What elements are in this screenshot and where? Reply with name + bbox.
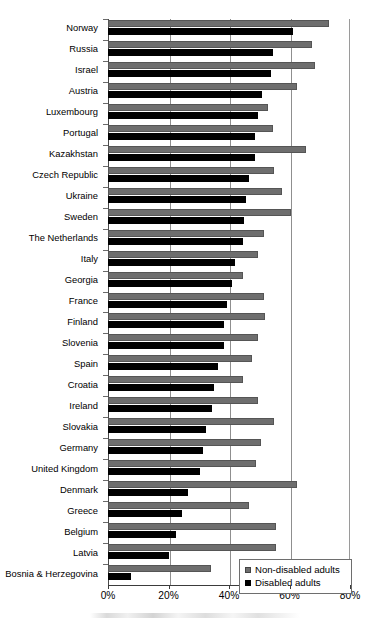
bar-group <box>0 333 375 354</box>
bar-group <box>0 19 375 40</box>
bar-group <box>0 501 375 522</box>
bar-group <box>0 208 375 229</box>
bar-non-disabled <box>108 62 315 69</box>
bar-non-disabled <box>108 334 258 341</box>
bar-group <box>0 480 375 501</box>
x-axis-tick-label: 40% <box>219 590 239 602</box>
bar-disabled <box>108 217 244 224</box>
bar-group <box>0 40 375 61</box>
bar-non-disabled <box>108 41 312 48</box>
bar-group <box>0 166 375 187</box>
bar-disabled <box>108 133 255 140</box>
bar-disabled <box>108 426 206 433</box>
x-axis-tick <box>290 585 291 589</box>
bar-non-disabled <box>108 272 243 279</box>
bar-non-disabled <box>108 313 265 320</box>
chart-legend: Non-disabled adults Disabled adults <box>239 559 352 594</box>
bar-disabled <box>108 301 227 308</box>
bar-group <box>0 354 375 375</box>
legend-label-non-disabled: Non-disabled adults <box>255 564 340 576</box>
bar-non-disabled <box>108 83 297 90</box>
bar-non-disabled <box>108 523 276 530</box>
bar-disabled <box>108 552 169 559</box>
bar-disabled <box>108 196 246 203</box>
x-axis-tick-label: 20% <box>158 590 178 602</box>
bars-layer <box>0 0 375 627</box>
bar-non-disabled <box>108 125 273 132</box>
bar-disabled <box>108 384 214 391</box>
bar-non-disabled <box>108 439 261 446</box>
bar-group <box>0 438 375 459</box>
bar-group <box>0 250 375 271</box>
bar-group <box>0 124 375 145</box>
bar-non-disabled <box>108 565 211 572</box>
bar-non-disabled <box>108 251 258 258</box>
bar-group <box>0 271 375 292</box>
bar-non-disabled <box>108 188 282 195</box>
bar-group <box>0 82 375 103</box>
bar-disabled <box>108 510 182 517</box>
scan-artifact <box>90 613 300 618</box>
bar-group <box>0 375 375 396</box>
bar-group <box>0 522 375 543</box>
bar-group <box>0 61 375 82</box>
bar-group <box>0 312 375 333</box>
bar-non-disabled <box>108 502 249 509</box>
bar-disabled <box>108 91 262 98</box>
legend-item-disabled: Disabled adults <box>245 576 347 589</box>
bar-disabled <box>108 70 271 77</box>
legend-label-disabled: Disabled adults <box>255 577 321 589</box>
bar-non-disabled <box>108 104 268 111</box>
x-axis-tick-label: 0% <box>101 590 116 602</box>
bar-non-disabled <box>108 481 297 488</box>
bar-disabled <box>108 489 188 496</box>
bar-disabled <box>108 280 232 287</box>
bar-non-disabled <box>108 418 274 425</box>
bar-non-disabled <box>108 293 264 300</box>
x-axis-tick <box>169 585 170 589</box>
bar-group <box>0 187 375 208</box>
bar-disabled <box>108 259 235 266</box>
bar-disabled <box>108 154 255 161</box>
bar-group <box>0 417 375 438</box>
x-axis-tick <box>350 585 351 589</box>
bar-disabled <box>108 321 224 328</box>
bar-non-disabled <box>108 146 306 153</box>
bar-disabled <box>108 531 176 538</box>
bar-chart: NorwayRussiaIsraelAustriaLuxembourgPortu… <box>0 0 375 627</box>
bar-non-disabled <box>108 544 276 551</box>
bar-non-disabled <box>108 167 274 174</box>
bar-non-disabled <box>108 355 252 362</box>
bar-disabled <box>108 405 212 412</box>
bar-non-disabled <box>108 209 291 216</box>
bar-disabled <box>108 573 131 580</box>
bar-disabled <box>108 28 293 35</box>
bar-disabled <box>108 468 200 475</box>
bar-disabled <box>108 238 243 245</box>
bar-group <box>0 459 375 480</box>
x-axis-tick <box>229 585 230 589</box>
bar-non-disabled <box>108 20 329 27</box>
legend-swatch-icon-non-disabled <box>245 567 251 573</box>
bar-disabled <box>108 447 203 454</box>
bar-non-disabled <box>108 397 258 404</box>
bar-group <box>0 396 375 417</box>
bar-non-disabled <box>108 460 256 467</box>
bar-group <box>0 229 375 250</box>
bar-disabled <box>108 175 249 182</box>
bar-group <box>0 292 375 313</box>
bar-disabled <box>108 112 258 119</box>
legend-item-non-disabled: Non-disabled adults <box>245 563 347 576</box>
bar-disabled <box>108 49 273 56</box>
bar-disabled <box>108 363 218 370</box>
bar-disabled <box>108 342 224 349</box>
bar-non-disabled <box>108 376 243 383</box>
bar-group <box>0 145 375 166</box>
legend-swatch-icon-disabled <box>245 580 251 586</box>
bar-non-disabled <box>108 230 264 237</box>
bar-group <box>0 103 375 124</box>
x-axis-tick <box>108 585 109 589</box>
